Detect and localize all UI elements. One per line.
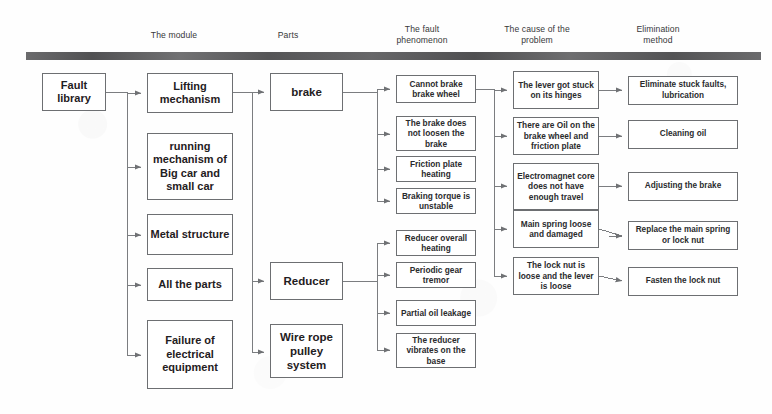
- node-label: Reducer overall heating: [399, 233, 473, 254]
- node-electromagnet-core-travel[interactable]: Electromagnet core does not have enough …: [513, 163, 599, 210]
- node-replace-main-spring-or-lock-nut[interactable]: Replace the main spring or lock nut: [628, 221, 738, 250]
- node-fasten-the-lock-nut[interactable]: Fasten the lock nut: [628, 267, 738, 296]
- node-label: Braking torque is unstable: [399, 191, 473, 212]
- node-reducer-overall-heating[interactable]: Reducer overall heating: [396, 230, 476, 256]
- node-label: Fault library: [45, 79, 103, 106]
- connector-lines: [0, 0, 772, 414]
- node-all-the-parts[interactable]: All the parts: [147, 268, 233, 301]
- node-label: The reducer vibrates on the base: [399, 335, 473, 367]
- node-label: There are Oil on the brake wheel and fri…: [516, 120, 596, 152]
- node-label: Wire rope pulley system: [273, 330, 340, 372]
- node-eliminate-stuck-faults-lubrication[interactable]: Eliminate stuck faults, lubrication: [628, 76, 738, 105]
- node-main-spring-loose-damaged[interactable]: Main spring loose and damaged: [513, 210, 599, 248]
- node-cleaning-oil[interactable]: Cleaning oil: [628, 120, 738, 149]
- node-reducer[interactable]: Reducer: [270, 262, 343, 300]
- node-lifting-mechanism[interactable]: Lifting mechanism: [147, 73, 233, 113]
- node-running-mechanism[interactable]: running mechanism of Big car and small c…: [147, 133, 233, 200]
- node-failure-of-electrical-equipment[interactable]: Failure of electrical equipment: [147, 320, 233, 389]
- node-adjusting-the-brake[interactable]: Adjusting the brake: [628, 172, 738, 201]
- node-label: Cannot brake brake wheel: [399, 79, 473, 100]
- node-fault-library[interactable]: Fault library: [42, 73, 106, 111]
- node-label: Electromagnet core does not have enough …: [516, 171, 596, 203]
- node-label: Partial oil leakage: [399, 308, 473, 319]
- node-label: The lever got stuck on its hinges: [516, 80, 596, 101]
- node-label: Replace the main spring or lock nut: [631, 225, 735, 246]
- node-label: Reducer: [273, 274, 340, 288]
- node-label: Periodic gear tremor: [399, 265, 473, 286]
- fault-library-diagram: The module Parts The fault phenomenon Th…: [0, 0, 772, 414]
- node-periodic-gear-tremor[interactable]: Periodic gear tremor: [396, 262, 476, 288]
- node-lock-nut-and-lever-loose[interactable]: The lock nut is loose and the lever is l…: [513, 257, 599, 295]
- node-label: Adjusting the brake: [631, 181, 735, 192]
- node-label: The lock nut is loose and the lever is l…: [516, 260, 596, 292]
- node-metal-structure[interactable]: Metal structure: [147, 214, 233, 255]
- node-label: Friction plate heating: [399, 159, 473, 180]
- node-label: brake: [273, 85, 340, 99]
- node-cannot-brake-brake-wheel[interactable]: Cannot brake brake wheel: [396, 75, 476, 103]
- node-lever-stuck-on-hinges[interactable]: The lever got stuck on its hinges: [513, 71, 599, 109]
- node-oil-on-brake-wheel[interactable]: There are Oil on the brake wheel and fri…: [513, 117, 599, 155]
- node-reducer-vibrates-on-base[interactable]: The reducer vibrates on the base: [396, 333, 476, 368]
- node-label: The brake does not loosen the brake: [399, 118, 473, 150]
- node-label: running mechanism of Big car and small c…: [150, 140, 230, 194]
- node-label: Failure of electrical equipment: [150, 334, 230, 375]
- node-label: Main spring loose and damaged: [516, 219, 596, 240]
- node-brake-does-not-loosen[interactable]: The brake does not loosen the brake: [396, 116, 476, 151]
- node-brake[interactable]: brake: [270, 73, 343, 111]
- node-label: All the parts: [150, 278, 230, 292]
- node-braking-torque-unstable[interactable]: Braking torque is unstable: [396, 188, 476, 214]
- node-friction-plate-heating[interactable]: Friction plate heating: [396, 156, 476, 182]
- node-label: Cleaning oil: [631, 129, 735, 140]
- node-wire-rope-pulley-system[interactable]: Wire rope pulley system: [270, 324, 343, 378]
- node-label: Eliminate stuck faults, lubrication: [631, 80, 735, 101]
- node-label: Lifting mechanism: [150, 80, 230, 107]
- node-label: Fasten the lock nut: [631, 276, 735, 287]
- node-label: Metal structure: [150, 228, 230, 242]
- node-partial-oil-leakage[interactable]: Partial oil leakage: [396, 300, 476, 326]
